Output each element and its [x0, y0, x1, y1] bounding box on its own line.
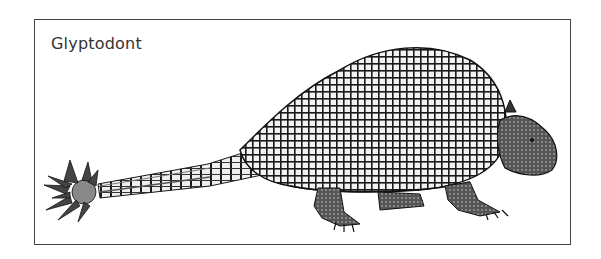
head [498, 100, 557, 175]
tail [98, 150, 262, 198]
carapace [240, 48, 506, 192]
tail-club [44, 160, 98, 222]
glyptodont-illustration [0, 0, 601, 259]
